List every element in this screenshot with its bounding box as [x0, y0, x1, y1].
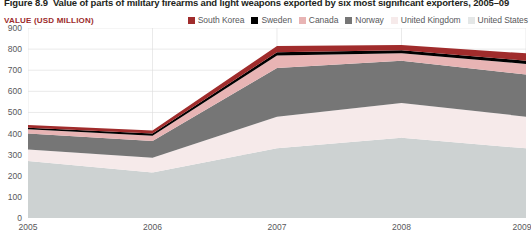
- y-tick-label: 300: [8, 150, 22, 160]
- y-tick-label: 100: [8, 192, 22, 202]
- legend-item-united-kingdom[interactable]: United Kingdom: [391, 15, 461, 25]
- legend-item-sweden[interactable]: Sweden: [251, 15, 291, 25]
- legend-swatch-south-korea: [188, 17, 195, 24]
- y-tick-label: 600: [8, 86, 22, 96]
- figure-title-text: Value of parts of military firearms and …: [53, 0, 509, 8]
- y-tick-label: 500: [8, 107, 22, 117]
- figure-number: Figure 8.9: [4, 0, 48, 8]
- x-tick-label: 2008: [392, 222, 411, 232]
- y-tick-label: 700: [8, 65, 22, 75]
- y-axis-labels: 0100200300400500600700800900: [0, 28, 26, 228]
- x-tick-label: 2005: [19, 222, 38, 232]
- legend-swatch-canada: [299, 17, 306, 24]
- stacked-area-chart: [28, 28, 526, 218]
- legend-swatch-norway: [345, 17, 352, 24]
- legend-label-norway: Norway: [355, 15, 384, 25]
- legend-swatch-united-states: [468, 17, 475, 24]
- legend-item-canada[interactable]: Canada: [299, 15, 338, 25]
- plot-area: [28, 28, 526, 218]
- legend-item-norway[interactable]: Norway: [345, 15, 384, 25]
- legend-label-united-states: United States: [478, 15, 528, 25]
- legend-swatch-sweden: [251, 17, 258, 24]
- y-tick-label: 200: [8, 171, 22, 181]
- x-tick-label: 2009: [513, 222, 531, 232]
- legend-swatch-united-kingdom: [391, 17, 398, 24]
- legend-item-south-korea[interactable]: South Korea: [188, 15, 245, 25]
- y-tick-label: 800: [8, 44, 22, 54]
- y-tick-label: 900: [8, 23, 22, 33]
- legend-label-south-korea: South Korea: [198, 15, 245, 25]
- x-tick-label: 2007: [268, 222, 287, 232]
- legend-item-united-states[interactable]: United States: [468, 15, 528, 25]
- x-axis-labels: 20052006200720082009: [0, 222, 530, 236]
- chart-legend: South Korea Sweden Canada Norway United …: [188, 15, 528, 25]
- legend-label-canada: Canada: [309, 15, 338, 25]
- y-tick-label: 400: [8, 129, 22, 139]
- legend-label-united-kingdom: United Kingdom: [401, 15, 461, 25]
- figure-title: Figure 8.9Value of parts of military fir…: [4, 0, 509, 8]
- x-tick-label: 2006: [143, 222, 162, 232]
- legend-label-sweden: Sweden: [261, 15, 291, 25]
